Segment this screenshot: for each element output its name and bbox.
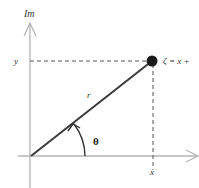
radius-line bbox=[31, 61, 152, 156]
x-tick-label: x bbox=[149, 167, 154, 177]
angle-label: θ bbox=[93, 135, 99, 147]
imaginary-axis-label: Im bbox=[23, 8, 35, 19]
y-tick-label: y bbox=[13, 56, 18, 66]
complex-plane-diagram: Im y x r θ ζ = x + bbox=[0, 0, 199, 188]
point-label: ζ = x + bbox=[163, 56, 190, 66]
imaginary-axis bbox=[24, 23, 36, 188]
radius-label: r bbox=[87, 90, 91, 100]
point-zeta-marker bbox=[147, 56, 158, 67]
real-axis bbox=[18, 150, 198, 162]
angle-arc bbox=[68, 124, 85, 156]
